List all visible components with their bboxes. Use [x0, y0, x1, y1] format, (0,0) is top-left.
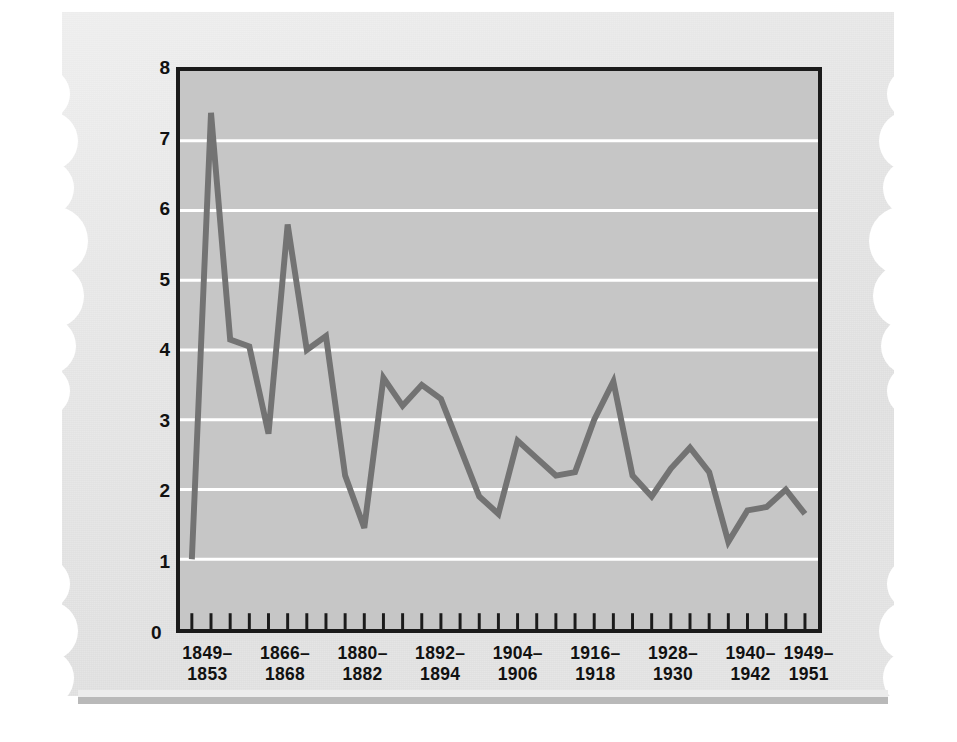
plot-area [176, 67, 822, 633]
x-axis-label-6-line1: 1928– [630, 643, 716, 664]
x-axis-label-1-line1: 1866– [242, 643, 328, 664]
y-tick-0: 0 [151, 622, 162, 644]
page-root: 8 7 6 5 4 3 2 1 0 MURDER PER 100,000 POP… [0, 0, 957, 742]
x-axis-label-1-line2: 1868 [242, 664, 328, 685]
x-axis-label-3-line2: 1894 [397, 664, 483, 685]
line-chart-svg [180, 71, 818, 629]
y-tick-5: 5 [144, 270, 170, 289]
x-axis-label-1: 1866–1868 [242, 643, 328, 686]
y-tick-8: 8 [144, 58, 170, 77]
y-tick-2: 2 [144, 481, 170, 500]
x-axis-label-3: 1892–1894 [397, 643, 483, 686]
y-tick-4: 4 [144, 340, 170, 359]
sheet-bottom-shadow [78, 697, 888, 704]
x-axis-label-0-line2: 1853 [164, 664, 250, 685]
x-axis-label-2-line1: 1880– [320, 643, 406, 664]
x-axis-label-8: 1949–1951 [766, 643, 852, 686]
x-axis-label-5-line2: 1918 [552, 664, 638, 685]
x-axis-label-3-line1: 1892– [397, 643, 483, 664]
x-axis-label-6: 1928–1930 [630, 643, 716, 686]
x-axis-label-4-line1: 1904– [475, 643, 561, 664]
y-axis-tick-labels: 8 7 6 5 4 3 2 1 [140, 0, 170, 700]
x-axis-label-4: 1904–1906 [475, 643, 561, 686]
x-axis-tick-labels: 1849–18531866–18681880–18821892–18941904… [176, 643, 822, 695]
data-line-murder-rate [192, 113, 805, 559]
x-axis-label-0-line1: 1849– [164, 643, 250, 664]
x-axis-label-0: 1849–1853 [164, 643, 250, 686]
x-axis-label-8-line2: 1951 [766, 664, 852, 685]
x-axis-label-6-line2: 1930 [630, 664, 716, 685]
y-tick-7: 7 [144, 129, 170, 148]
y-tick-3: 3 [144, 411, 170, 430]
y-tick-6: 6 [144, 199, 170, 218]
y-tick-1: 1 [144, 552, 170, 571]
x-axis-label-5-line1: 1916– [552, 643, 638, 664]
x-axis-label-4-line2: 1906 [475, 664, 561, 685]
x-axis-label-8-line1: 1949– [766, 643, 852, 664]
x-axis-label-5: 1916–1918 [552, 643, 638, 686]
x-axis-label-2-line2: 1882 [320, 664, 406, 685]
x-axis-label-2: 1880–1882 [320, 643, 406, 686]
